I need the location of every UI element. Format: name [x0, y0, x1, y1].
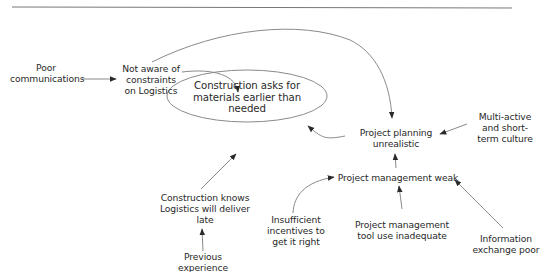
node-insufficient-incentives: Insufficient incentives to get it right	[258, 214, 334, 247]
edge-project-planning-to-central	[308, 126, 345, 138]
node-poor-communications: Poor communications	[10, 62, 82, 84]
node-project-planning: Project planning unrealistic	[350, 127, 442, 149]
node-previous-experience: Previous experience	[175, 251, 231, 272]
node-multi-active-culture: Multi-active and short- term culture	[470, 111, 540, 144]
edge-multi-active-to-project-planning	[440, 124, 467, 134]
edge-incentives-to-pm-weak	[293, 177, 334, 213]
edge-pm-tool-to-pm-weak	[399, 186, 402, 209]
node-construction-asks: Construction asks for materials earlier …	[177, 80, 317, 115]
node-not-aware: Not aware of constraints on Logistics	[116, 63, 186, 96]
edge-pm-weak-to-project-planning	[395, 154, 396, 168]
edge-info-exchange-to-pm-weak	[455, 180, 503, 228]
edge-construction-knows-to-central	[201, 154, 236, 189]
top-rule	[12, 7, 512, 8]
node-construction-knows: Construction knows Logistics will delive…	[150, 192, 260, 225]
node-pm-weak: Project management weak	[336, 172, 460, 183]
node-pm-tool-inadequate: Project management tool use inadequate	[352, 219, 452, 241]
node-information-exchange: Information exchange poor	[470, 233, 542, 255]
edge-previous-experience-to-construction-knows	[202, 229, 203, 251]
cause-effect-diagram: Construction asks for materials earlier …	[0, 0, 548, 272]
